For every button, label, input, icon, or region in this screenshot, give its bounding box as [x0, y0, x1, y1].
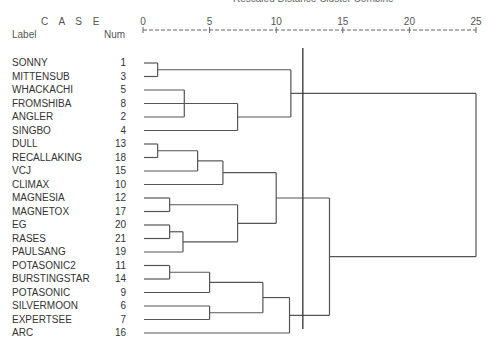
dendrogram: [0, 0, 491, 345]
